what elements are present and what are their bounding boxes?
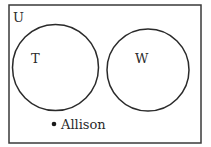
set-t-circle (13, 25, 99, 111)
set-t-label: T (31, 51, 40, 66)
venn-diagram: U T W Allison (0, 0, 211, 147)
set-w-circle (107, 29, 189, 111)
universe-label: U (13, 10, 24, 25)
element-label: Allison (60, 117, 106, 132)
set-w-label: W (135, 51, 149, 66)
element-dot (52, 122, 57, 127)
